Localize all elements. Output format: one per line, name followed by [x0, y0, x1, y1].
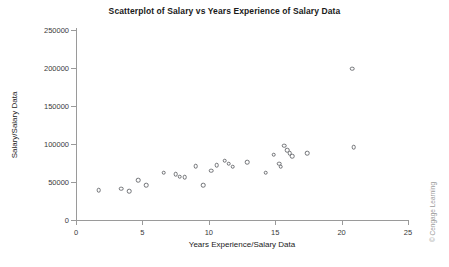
- x-tick-mark: [142, 220, 143, 225]
- x-tick-label: 20: [337, 228, 345, 237]
- data-point: [278, 165, 283, 170]
- data-point: [214, 163, 219, 168]
- data-point: [290, 154, 295, 159]
- y-axis-label: Salary/Salary Data: [10, 92, 19, 159]
- y-tick-label: 200000: [44, 64, 69, 73]
- x-tick-label: 5: [140, 228, 144, 237]
- data-point: [136, 178, 141, 183]
- data-point: [96, 188, 101, 193]
- data-point: [144, 183, 149, 188]
- data-point: [193, 164, 198, 169]
- y-tick-label: 150000: [44, 102, 69, 111]
- copyright-credit: © Cengage Learning: [429, 182, 436, 242]
- x-tick-label: 25: [404, 228, 412, 237]
- data-point: [245, 160, 250, 165]
- x-tick-mark: [408, 220, 409, 225]
- data-point: [209, 168, 214, 173]
- x-tick-label: 10: [205, 228, 213, 237]
- data-point: [230, 165, 235, 170]
- plot-area: [76, 30, 408, 220]
- data-point: [183, 175, 188, 180]
- x-tick-mark: [209, 220, 210, 225]
- data-point: [119, 187, 124, 192]
- x-tick-label: 15: [271, 228, 279, 237]
- data-point: [201, 183, 206, 188]
- scatterplot-figure: Scatterplot of Salary vs Years Experienc…: [0, 0, 449, 267]
- data-point: [264, 171, 269, 176]
- data-point: [177, 174, 182, 179]
- y-tick-label: 0: [65, 216, 69, 225]
- x-tick-mark: [342, 220, 343, 225]
- data-point: [127, 189, 132, 194]
- data-point: [272, 152, 277, 157]
- x-tick-mark: [275, 220, 276, 225]
- x-tick-label: 0: [74, 228, 78, 237]
- data-point: [305, 151, 310, 156]
- y-tick-label: 50000: [48, 178, 69, 187]
- chart-title: Scatterplot of Salary vs Years Experienc…: [0, 6, 449, 16]
- data-point: [351, 145, 356, 150]
- y-tick-label: 100000: [44, 140, 69, 149]
- x-axis-label: Years Experience/Salary Data: [189, 240, 295, 249]
- x-axis-line: [76, 220, 409, 221]
- x-tick-mark: [76, 220, 77, 225]
- y-tick-label: 250000: [44, 26, 69, 35]
- data-point: [350, 66, 355, 71]
- data-point: [161, 171, 166, 176]
